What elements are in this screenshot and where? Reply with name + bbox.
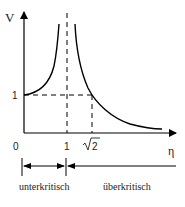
resonance-diagram: V η 1 0 1 2 unterkritisch überkritisch [0, 0, 185, 207]
svg-text:2: 2 [92, 141, 98, 152]
arrowhead-right-icon [57, 163, 65, 169]
arrowhead-left-icon [23, 163, 31, 169]
x-tick-1: 1 [64, 141, 70, 152]
subcritical-curve [24, 24, 59, 95]
supercritical-label: überkritisch [103, 181, 151, 192]
x-axis-label: η [168, 144, 174, 158]
arrowhead-left-icon [67, 163, 75, 169]
x-tick-sqrt2: 2 [83, 138, 100, 152]
subcritical-label: unterkritisch [19, 181, 70, 192]
supercritical-curve [75, 24, 162, 129]
y-tick-1: 1 [12, 90, 18, 101]
y-axis-label: V [5, 10, 15, 25]
x-tick-0: 0 [13, 141, 19, 152]
